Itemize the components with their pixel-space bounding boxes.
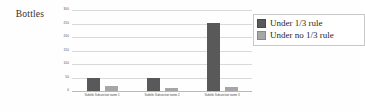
gridline [72, 91, 252, 92]
x-axis-category-labels: Subtitle Subsection name 1Subtitle Subse… [72, 93, 252, 105]
chart-legend: Under 1/3 rule Under no 1/3 rule [253, 14, 365, 46]
legend-label: Under 1/3 rule [270, 18, 322, 28]
plot-area [72, 10, 252, 91]
legend-item[interactable]: Under 1/3 rule [257, 18, 361, 28]
y-axis-tick-labels: 300250200150100500 [0, 10, 72, 91]
bar-group [132, 10, 192, 91]
bar[interactable] [225, 87, 238, 91]
legend-swatch-under-1-3-rule [257, 19, 266, 28]
bar[interactable] [165, 88, 178, 91]
bar-groups [72, 10, 252, 91]
bar[interactable] [147, 78, 160, 92]
y-axis-tick-label: 50 [65, 76, 69, 79]
y-axis-tick-label: 250 [64, 22, 69, 25]
x-axis-category-label: Subtitle Subsection name 1 [84, 93, 119, 97]
x-axis-category-label: Subtitle Subsection name 2 [144, 93, 179, 97]
bar-group [72, 10, 132, 91]
y-axis-tick-label: 200 [64, 35, 69, 38]
legend-label: Under no 1/3 rule [270, 30, 334, 40]
y-axis-tick-label: 100 [64, 62, 69, 65]
y-axis-tick-label: 0 [67, 89, 69, 92]
bar[interactable] [87, 78, 100, 91]
bar[interactable] [105, 86, 118, 91]
y-axis-tick-label: 150 [64, 49, 69, 52]
y-axis-tick-label: 300 [64, 8, 69, 11]
bar[interactable] [207, 23, 220, 91]
bar-group [192, 10, 252, 91]
x-axis-category-label: Subtitle Subsection name 3 [204, 93, 239, 97]
legend-swatch-under-no-1-3-rule [257, 31, 266, 40]
legend-item[interactable]: Under no 1/3 rule [257, 30, 361, 40]
